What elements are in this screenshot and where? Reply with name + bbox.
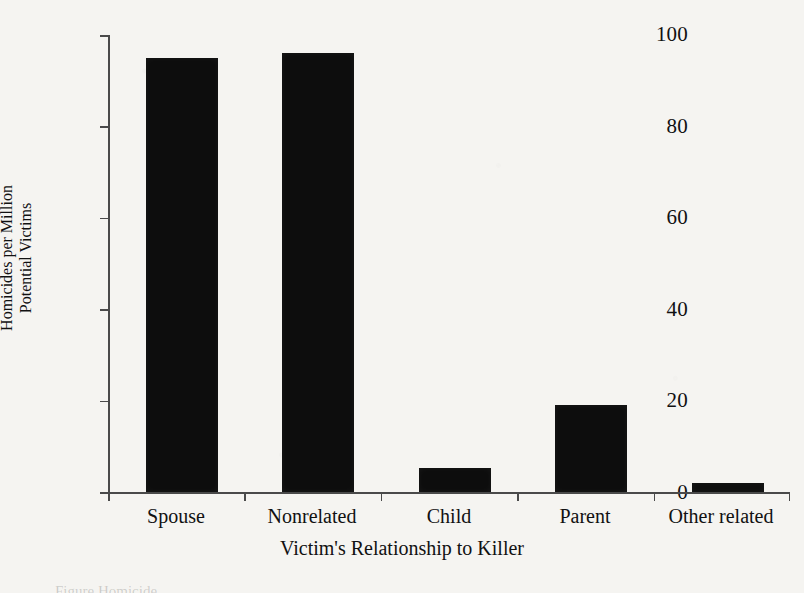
bar-spouse — [146, 58, 218, 492]
x-tick-mark-2 — [381, 492, 383, 501]
y-tick-mark-20 — [100, 401, 109, 403]
x-axis-title: Victim's Relationship to Killer — [0, 537, 804, 559]
x-category-label-nonrelated: Nonrelated — [232, 505, 392, 527]
bar-parent — [555, 405, 627, 492]
y-axis-title-line-1: Homicides per Million — [0, 185, 16, 331]
y-tick-mark-80 — [100, 126, 109, 128]
y-axis-title-line-2: Potential Victims — [16, 203, 35, 313]
bar-nonrelated — [282, 53, 354, 492]
x-category-label-other-related: Other related — [641, 505, 801, 527]
x-tick-mark-5 — [789, 492, 791, 501]
caption-fragment: Figure Homicide — [55, 583, 157, 593]
y-tick-mark-60 — [100, 218, 109, 220]
x-tick-mark-1 — [244, 492, 246, 501]
bar-child — [419, 468, 491, 492]
y-axis-line — [108, 35, 110, 492]
y-tick-mark-40 — [100, 309, 109, 311]
x-tick-mark-0 — [108, 492, 110, 501]
y-tick-mark-100 — [100, 35, 109, 37]
x-tick-mark-3 — [517, 492, 519, 501]
plot-area — [108, 35, 790, 492]
x-axis-line — [108, 492, 790, 494]
bar-other-related — [692, 483, 764, 492]
x-tick-mark-4 — [654, 492, 656, 501]
